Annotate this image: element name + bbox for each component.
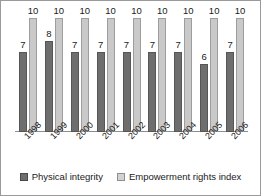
bar-value-label: 10 — [22, 6, 44, 16]
bar-2006-physical-integrity — [226, 52, 234, 132]
bar-value-label: 10 — [100, 6, 122, 16]
legend-item-empowerment-rights-index: Empowerment rights index — [117, 171, 241, 182]
legend-swatch-dark-square-icon — [20, 173, 28, 181]
bar-value-label: 10 — [151, 6, 173, 16]
bar-value-label: 10 — [74, 6, 96, 16]
bar-chart-figure: 710810710710710710710610710 199819992000… — [0, 0, 261, 196]
bar-2003-empowerment-rights-index — [158, 18, 166, 132]
bar-2004-empowerment-rights-index — [184, 18, 192, 132]
bar-2001-empowerment-rights-index — [107, 18, 115, 132]
bar-2000-empowerment-rights-index — [81, 18, 89, 132]
bar-1999-physical-integrity — [45, 41, 53, 132]
bar-2005-empowerment-rights-index — [210, 18, 218, 132]
bar-2004-physical-integrity — [174, 52, 182, 132]
bar-value-label: 10 — [177, 6, 199, 16]
chart-legend: Physical integrity Empowerment rights in… — [1, 171, 260, 182]
legend-swatch-light-square-icon — [117, 173, 125, 181]
bar-1998-physical-integrity — [19, 52, 27, 132]
bar-2005-physical-integrity — [200, 64, 208, 132]
legend-label: Physical integrity — [32, 171, 103, 182]
bar-2002-physical-integrity — [123, 52, 131, 132]
bar-2000-physical-integrity — [71, 52, 79, 132]
bar-1999-empowerment-rights-index — [55, 18, 63, 132]
bar-value-label: 10 — [126, 6, 148, 16]
bar-2001-physical-integrity — [97, 52, 105, 132]
bar-1998-empowerment-rights-index — [29, 18, 37, 132]
bar-2003-physical-integrity — [148, 52, 156, 132]
legend-item-physical-integrity: Physical integrity — [20, 171, 103, 182]
bar-value-label: 10 — [229, 6, 251, 16]
legend-label: Empowerment rights index — [129, 171, 241, 182]
bar-value-label: 10 — [48, 6, 70, 16]
bar-value-label: 10 — [203, 6, 225, 16]
bar-2006-empowerment-rights-index — [236, 18, 244, 132]
bar-2002-empowerment-rights-index — [133, 18, 141, 132]
